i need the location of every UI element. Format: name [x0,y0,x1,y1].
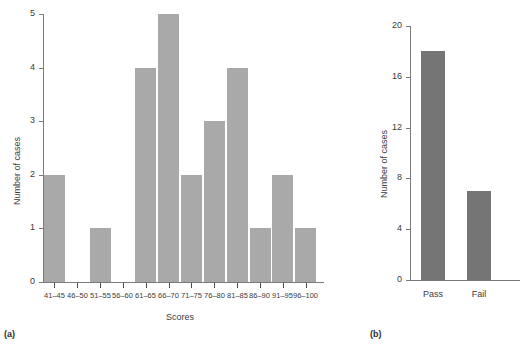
category-label: Fail [456,290,502,299]
bar [181,175,202,282]
y-tick-label: 16 [372,72,402,81]
bar [467,191,491,280]
y-tick-label: 20 [372,21,402,30]
bar [44,175,65,282]
figure-a-histogram: Number of cases 012345 41–4546–5051–5556… [0,0,352,348]
y-tick-mark [406,77,411,78]
y-axis-title-b: Number of cases [380,130,389,198]
y-tick-label: 0 [5,277,35,286]
y-tick-mark [406,280,411,281]
y-tick-label: 0 [372,275,402,284]
y-tick-mark [39,14,44,15]
x-axis-title-a: Scores [120,313,240,322]
y-tick-label: 2 [5,170,35,179]
y-tick-mark [406,128,411,129]
bar [272,175,293,282]
x-tick-mark [214,283,215,288]
x-tick-mark [54,283,55,288]
bar [90,228,111,282]
y-tick-label: 12 [372,123,402,132]
figure-b-barchart: Number of cases 048121620 PassFail (b) [352,0,522,348]
bar [250,228,271,282]
x-tick-label: 96–100 [277,292,334,300]
bar [421,51,445,280]
y-tick-mark [406,229,411,230]
bar [204,121,225,282]
y-tick-label: 8 [372,173,402,182]
panel-tag-b: (b) [370,330,382,339]
y-tick-label: 4 [5,63,35,72]
x-tick-mark [306,283,307,288]
x-axis-line-a [43,282,324,283]
y-tick-label: 5 [5,9,35,18]
x-tick-mark [169,283,170,288]
y-axis-line-b [410,26,411,280]
y-tick-mark [406,26,411,27]
bar [135,68,156,282]
x-tick-mark [191,283,192,288]
y-tick-label: 1 [5,223,35,232]
y-tick-mark [39,68,44,69]
bar [227,68,248,282]
x-tick-mark [237,283,238,288]
bar [295,228,316,282]
panel-tag-a: (a) [4,330,15,339]
y-tick-label: 3 [5,116,35,125]
x-tick-mark [146,283,147,288]
x-tick-mark [260,283,261,288]
x-tick-mark [77,283,78,288]
x-tick-mark [100,283,101,288]
x-tick-mark [283,283,284,288]
bar [158,14,179,282]
x-tick-mark [123,283,124,288]
category-label: Pass [410,290,456,299]
y-tick-mark [39,282,44,283]
x-axis-line-b [410,280,520,281]
y-tick-mark [39,121,44,122]
y-tick-label: 4 [372,224,402,233]
y-tick-mark [406,178,411,179]
